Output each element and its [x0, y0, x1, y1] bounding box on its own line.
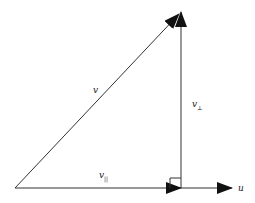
label-v-perp: v⊥ — [192, 99, 203, 111]
vector-v — [15, 14, 179, 188]
label-v-parallel: v|| — [99, 170, 108, 183]
vector-diagram: v v⊥ v|| u — [0, 0, 255, 203]
label-v: v — [93, 85, 98, 95]
label-u: u — [238, 183, 244, 193]
right-angle-marker — [170, 178, 181, 188]
